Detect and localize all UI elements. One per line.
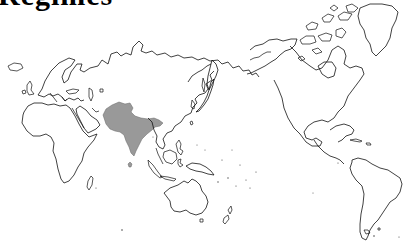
arabian-peninsula xyxy=(76,106,100,133)
sakhalin xyxy=(202,78,205,92)
philippines xyxy=(176,140,183,155)
east-asia-coast xyxy=(148,71,214,149)
tasmania xyxy=(200,219,203,222)
sulawesi xyxy=(178,159,183,167)
eurasia-north-coast xyxy=(38,41,259,95)
europe-south-coast xyxy=(38,94,84,101)
sri-lanka xyxy=(128,162,132,167)
pacific-islands xyxy=(95,137,399,238)
new-guinea xyxy=(186,163,214,175)
british-isles xyxy=(22,81,34,95)
alaska xyxy=(247,39,297,74)
new-zealand xyxy=(223,206,232,224)
world-map xyxy=(0,0,409,241)
tierra-del-fuego xyxy=(364,230,370,234)
greenland xyxy=(358,4,398,56)
java xyxy=(160,176,176,181)
north-america xyxy=(274,46,364,146)
caspian-sea xyxy=(89,88,93,101)
taiwan xyxy=(190,121,193,125)
malay-peninsula xyxy=(156,148,163,164)
central-america xyxy=(314,140,344,164)
africa xyxy=(22,103,97,183)
black-sea xyxy=(66,89,79,94)
hudson-bay xyxy=(318,62,336,78)
aleutians xyxy=(250,52,271,60)
madagascar xyxy=(87,176,93,190)
australia xyxy=(164,179,208,215)
south-america xyxy=(350,158,402,240)
aral-sea xyxy=(100,89,103,92)
falklands xyxy=(378,228,380,230)
hispaniola xyxy=(366,143,371,145)
red-sea xyxy=(72,108,84,128)
cuba xyxy=(350,139,362,142)
sumatra xyxy=(148,160,162,178)
canadian-arctic-archipelago xyxy=(298,4,358,61)
iceland xyxy=(8,63,23,71)
gulf-of-mexico xyxy=(330,124,354,142)
persian-gulf xyxy=(92,108,99,112)
borneo xyxy=(163,150,177,164)
